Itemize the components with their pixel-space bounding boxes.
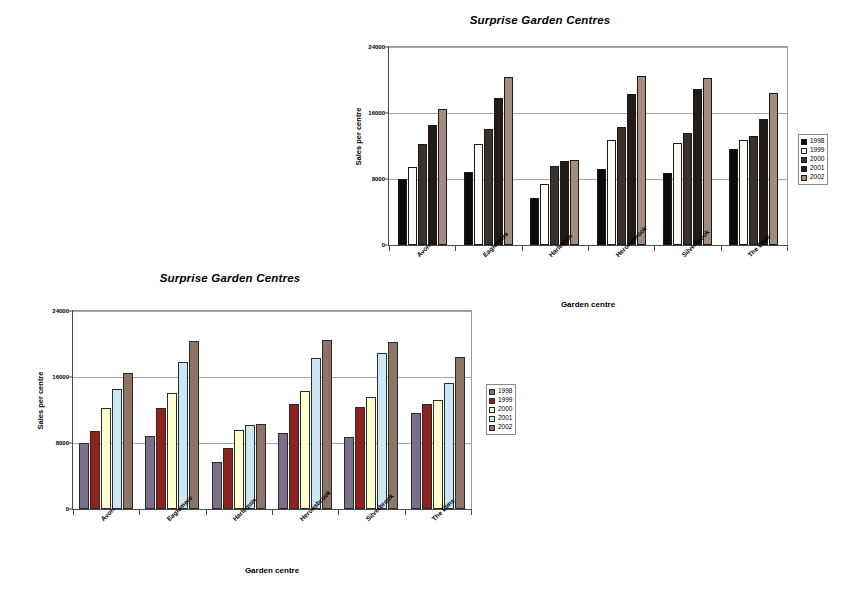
legend-row: 2000 <box>801 155 824 164</box>
legend-row: 2002 <box>489 423 512 432</box>
x-axis-ticks <box>73 509 471 517</box>
bar <box>693 89 702 245</box>
bar <box>311 358 321 509</box>
bar <box>101 408 111 509</box>
legend-swatch <box>489 389 495 395</box>
bar-group <box>405 311 471 509</box>
bar <box>278 433 288 509</box>
legend: 19981999200020012002 <box>486 384 516 435</box>
chart-top: Surprise Garden Centres Sales per centre… <box>340 14 860 314</box>
legend-row: 2001 <box>801 164 824 173</box>
bar <box>683 133 692 245</box>
bar-group <box>588 47 654 245</box>
legend-swatch <box>489 407 495 413</box>
legend-row: 2001 <box>489 414 512 423</box>
bar <box>703 78 712 245</box>
bar <box>156 408 166 509</box>
bar <box>408 167 417 245</box>
bar <box>759 119 768 245</box>
legend-label: 1998 <box>810 138 824 145</box>
bar <box>300 391 310 509</box>
bar <box>597 169 606 245</box>
legend-label: 1998 <box>498 388 512 395</box>
x-tick-mark <box>206 509 207 515</box>
y-tick-label: 16000 <box>368 110 385 116</box>
x-tick-mark <box>139 509 140 515</box>
bar <box>729 149 738 245</box>
x-tick-mark <box>654 245 655 251</box>
bar <box>607 140 616 245</box>
bar <box>637 76 646 245</box>
bar-group <box>272 311 338 509</box>
bar <box>256 424 266 509</box>
bar <box>550 166 559 245</box>
x-tick-mark <box>522 245 523 251</box>
legend-label: 2002 <box>810 174 824 181</box>
legend-swatch <box>489 398 495 404</box>
bar <box>570 160 579 245</box>
legend: 19981999200020012002 <box>798 134 828 185</box>
bar <box>223 448 233 509</box>
y-tick-label: 8000 <box>372 176 385 182</box>
legend-label: 1999 <box>498 397 512 404</box>
y-tick-label: 8000 <box>56 440 69 446</box>
bar <box>769 93 778 245</box>
y-tick-label: 0 <box>382 242 385 248</box>
bar <box>627 94 636 245</box>
bar <box>355 407 365 509</box>
bar <box>474 144 483 245</box>
legend-swatch <box>489 425 495 431</box>
bar <box>617 127 626 245</box>
bar <box>167 393 177 509</box>
plot-area: 080001600024000 AvonEaglemereHarlequinHe… <box>72 310 472 510</box>
bar <box>749 136 758 245</box>
bar <box>123 373 133 509</box>
legend-row: 2002 <box>801 173 824 182</box>
chart-bottom: Surprise Garden Centres Sales per centre… <box>20 272 560 582</box>
legend-swatch <box>801 175 807 181</box>
y-tick-label: 16000 <box>52 374 69 380</box>
bar <box>322 340 332 509</box>
chart-title: Surprise Garden Centres <box>340 14 740 26</box>
x-tick-mark <box>787 245 788 251</box>
bar-group <box>73 311 139 509</box>
legend-swatch <box>801 157 807 163</box>
x-tick-mark <box>73 509 74 515</box>
bar <box>189 341 199 509</box>
bar <box>494 98 503 245</box>
chart-title: Surprise Garden Centres <box>20 272 440 284</box>
bar-group <box>654 47 720 245</box>
bar <box>444 383 454 509</box>
y-tick-label: 24000 <box>52 308 69 314</box>
legend-label: 2000 <box>810 156 824 163</box>
bar-groups <box>73 311 471 509</box>
legend-swatch <box>489 416 495 422</box>
legend-swatch <box>801 148 807 154</box>
bar <box>663 173 672 245</box>
bar <box>388 342 398 509</box>
bar <box>455 357 465 509</box>
legend-row: 1998 <box>489 387 512 396</box>
bar <box>484 129 493 245</box>
legend-row: 1999 <box>489 396 512 405</box>
x-tick-mark <box>455 245 456 251</box>
bar <box>418 144 427 245</box>
bar-group <box>206 311 272 509</box>
bar <box>422 404 432 509</box>
bar-groups <box>389 47 787 245</box>
legend-label: 2001 <box>498 415 512 422</box>
legend-swatch <box>801 139 807 145</box>
bar <box>540 184 549 245</box>
plot-area: 080001600024000 AvonEaglemereHarlequinHe… <box>388 46 788 246</box>
y-axis-label: Sales per centre <box>36 359 45 443</box>
x-tick-mark <box>721 245 722 251</box>
bar <box>739 140 748 245</box>
bar <box>530 198 539 245</box>
bar <box>504 77 513 245</box>
bar <box>464 172 473 245</box>
bar-group <box>139 311 205 509</box>
legend-label: 1999 <box>810 147 824 154</box>
bar-group <box>455 47 521 245</box>
bar <box>145 436 155 509</box>
bar <box>411 413 421 509</box>
